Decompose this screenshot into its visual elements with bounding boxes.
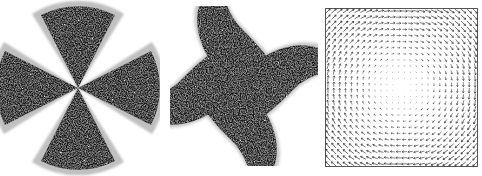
spiral-pinwheel-svg [160, 0, 320, 176]
panel-radial-lobe-pattern [0, 0, 160, 176]
figure-container [0, 0, 482, 176]
radial-lobe-svg [0, 0, 160, 176]
panel-spiral-pinwheel-pattern [160, 0, 320, 176]
quiver-plot-svg [320, 0, 482, 176]
panel-vector-field-quiver-plot [320, 0, 482, 176]
